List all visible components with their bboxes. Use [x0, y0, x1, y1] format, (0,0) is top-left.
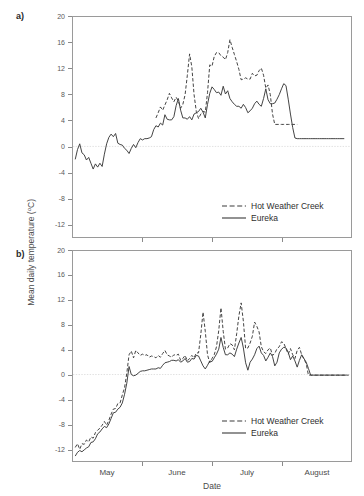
y-tick-mark	[68, 400, 72, 401]
y-tick-mark	[68, 375, 72, 376]
legend-swatch-solid-icon	[222, 214, 246, 222]
y-tick-label: -4	[41, 169, 65, 176]
y-tick-mark	[68, 16, 72, 17]
figure-root: a) b) Mean daily temperature (oC) Date 2…	[0, 0, 364, 496]
y-tick-label: -8	[41, 195, 65, 202]
x-tick-mark	[142, 462, 143, 466]
y-tick-mark	[68, 250, 72, 251]
x-tick-mark	[282, 462, 283, 466]
y-axis-title-tail: C)	[26, 199, 36, 208]
y-tick-label: 4	[41, 346, 65, 353]
y-tick-label: 20	[41, 247, 65, 254]
legend-swatch-dashed-icon	[222, 202, 246, 210]
y-axis-title-degree: o	[26, 208, 32, 211]
y-tick-mark	[68, 300, 72, 301]
y-tick-mark	[68, 68, 72, 69]
series-line-eureka	[75, 84, 344, 169]
y-tick-mark	[68, 199, 72, 200]
y-tick-mark	[68, 425, 72, 426]
x-tick-label-may: May	[77, 468, 137, 477]
legend-item-eureka: Eureka	[222, 427, 324, 439]
y-tick-mark	[68, 173, 72, 174]
legend-item-hot-weather-creek: Hot Weather Creek	[222, 200, 324, 212]
y-axis-title: Mean daily temperature (oC)	[26, 152, 37, 352]
y-tick-label: 16	[41, 39, 65, 46]
x-tick-label-august: August	[287, 468, 347, 477]
x-tick-mark	[212, 462, 213, 466]
x-tick-mark	[142, 238, 143, 242]
legend-swatch-solid-icon	[222, 429, 246, 437]
legend-panel-a: Hot Weather Creek Eureka	[222, 200, 324, 224]
series-line-hot-weather-creek	[156, 40, 297, 125]
y-tick-label: -12	[41, 446, 65, 453]
x-axis-title: Date	[72, 481, 352, 491]
legend-panel-b: Hot Weather Creek Eureka	[222, 415, 324, 439]
x-tick-label-july: July	[217, 468, 277, 477]
legend-label-hot-weather-creek: Hot Weather Creek	[251, 201, 324, 211]
y-tick-label: -4	[41, 396, 65, 403]
y-axis-title-main: Mean daily temperature (	[26, 211, 36, 306]
legend-item-eureka: Eureka	[222, 212, 324, 224]
legend-label-eureka: Eureka	[251, 428, 278, 438]
y-tick-label: 8	[41, 91, 65, 98]
y-tick-label: 0	[41, 143, 65, 150]
y-tick-label: 0	[41, 371, 65, 378]
legend-label-hot-weather-creek: Hot Weather Creek	[251, 416, 324, 426]
y-tick-mark	[68, 325, 72, 326]
y-tick-mark	[68, 94, 72, 95]
panel-label-a: a)	[16, 11, 24, 21]
y-tick-mark	[68, 42, 72, 43]
legend-label-eureka: Eureka	[251, 213, 278, 223]
y-tick-label: 12	[41, 296, 65, 303]
y-tick-mark	[68, 225, 72, 226]
y-tick-mark	[68, 275, 72, 276]
x-tick-label-june: June	[147, 468, 207, 477]
y-tick-label: 8	[41, 321, 65, 328]
x-tick-mark	[212, 238, 213, 242]
legend-item-hot-weather-creek: Hot Weather Creek	[222, 415, 324, 427]
panel-label-b: b)	[16, 249, 25, 259]
y-tick-label: -8	[41, 421, 65, 428]
y-tick-mark	[68, 147, 72, 148]
y-tick-label: 12	[41, 65, 65, 72]
y-tick-mark	[68, 120, 72, 121]
y-tick-label: 16	[41, 271, 65, 278]
legend-swatch-dashed-icon	[222, 417, 246, 425]
y-tick-label: 4	[41, 117, 65, 124]
y-tick-mark	[68, 350, 72, 351]
x-tick-mark	[282, 238, 283, 242]
y-tick-mark	[68, 450, 72, 451]
y-tick-label: -12	[41, 221, 65, 228]
y-tick-label: 20	[41, 13, 65, 20]
